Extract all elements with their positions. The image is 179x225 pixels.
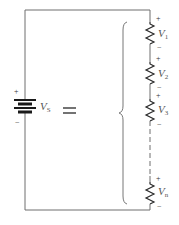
- resistor-2: [146, 62, 154, 84]
- r3-voltage-label: V3: [158, 103, 169, 117]
- r3-negative-sign: −: [157, 120, 162, 129]
- source-positive-sign: +: [14, 87, 19, 96]
- rn-negative-sign: −: [157, 202, 162, 211]
- r3-positive-sign: +: [156, 91, 161, 100]
- resistor-3: [146, 99, 154, 121]
- circuit-diagram: + − VS + − V1 + − V2 + − V3 + − Vn: [0, 0, 179, 225]
- battery-symbol: [14, 100, 36, 112]
- r2-voltage-label: V2: [158, 67, 169, 81]
- rn-positive-sign: +: [156, 174, 161, 183]
- equals-sign: [63, 108, 76, 113]
- curly-brace: [119, 22, 127, 204]
- r1-positive-sign: +: [156, 14, 161, 23]
- source-voltage-label: VS: [40, 100, 51, 114]
- resistor-1: [146, 22, 154, 44]
- resistor-n: [146, 182, 154, 204]
- r1-negative-sign: −: [157, 43, 162, 52]
- r1-voltage-label: V1: [158, 27, 169, 41]
- r2-positive-sign: +: [156, 54, 161, 63]
- rn-voltage-label: Vn: [158, 185, 169, 199]
- source-negative-sign: −: [15, 118, 20, 127]
